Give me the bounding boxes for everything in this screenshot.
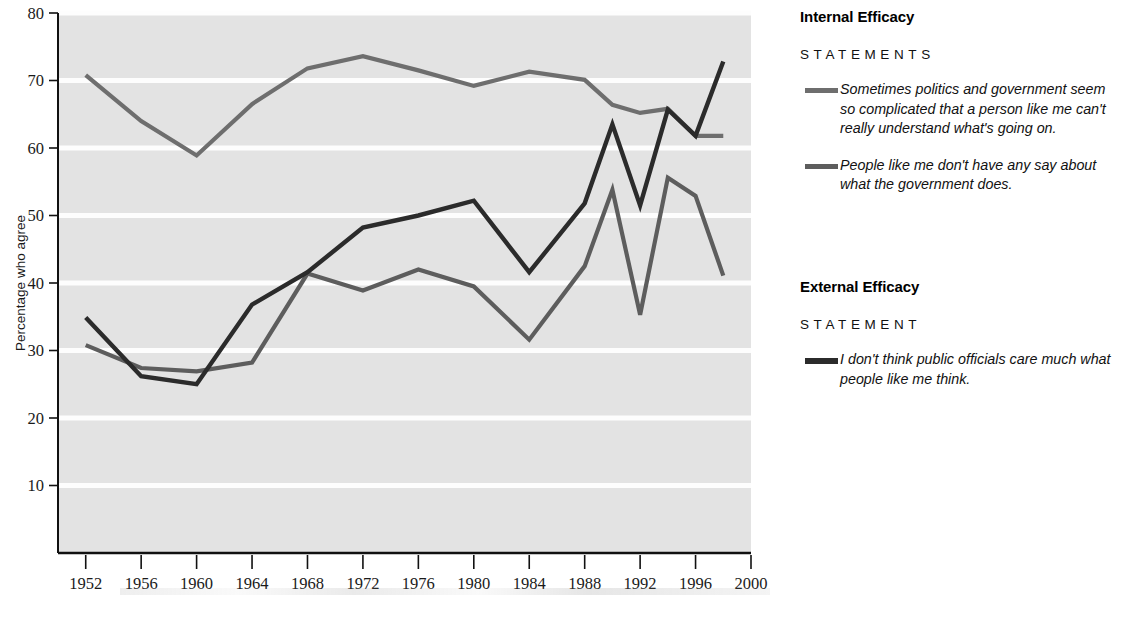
legend-line-swatch-icon [805,164,838,169]
legend-item: People like me don't have any say about … [800,156,1138,195]
y-axis-tick-label: 60 [28,139,45,158]
y-axis-tick-label: 80 [28,4,45,23]
y-axis-title: Percentage who agree [13,215,28,351]
chart-legend: Internal Efficacy STATEMENTS Sometimes p… [800,0,1138,624]
y-axis-tick-label: 40 [28,274,45,293]
y-axis-tick-label: 10 [28,476,45,495]
y-axis-tick-label: 30 [28,341,45,360]
legend-item-label: Sometimes politics and government seem s… [840,80,1118,139]
legend-item: Sometimes politics and government seem s… [800,80,1138,139]
y-axis-tick-label: 20 [28,409,45,428]
legend-item-label: People like me don't have any say about … [840,156,1118,195]
legend-line-swatch-icon [805,358,838,364]
efficacy-line-chart-figure: 1020304050607080Percentage who agree1952… [0,0,1138,624]
legend-group-title: External Efficacy [800,278,1138,296]
legend-group-internal-efficacy: Internal Efficacy STATEMENTS Sometimes p… [800,8,1138,195]
chart-svg: 1020304050607080Percentage who agree1952… [0,0,790,624]
legend-item: I don't think public officials care much… [800,350,1138,389]
x-axis-tick-label: 1952 [69,574,102,593]
legend-group-external-efficacy: External Efficacy STATEMENT I don't thin… [800,278,1138,389]
y-axis-tick-label: 70 [28,71,45,90]
legend-group-subtitle: STATEMENTS [800,47,1138,63]
legend-group-title: Internal Efficacy [800,8,1138,26]
legend-line-swatch-icon [805,88,838,93]
legend-group-subtitle: STATEMENT [800,317,1138,333]
scan-artifact [120,588,770,595]
chart-plot-area: 1020304050607080Percentage who agree1952… [0,0,790,624]
y-axis-tick-label: 50 [28,206,45,225]
legend-item-label: I don't think public officials care much… [840,350,1118,389]
